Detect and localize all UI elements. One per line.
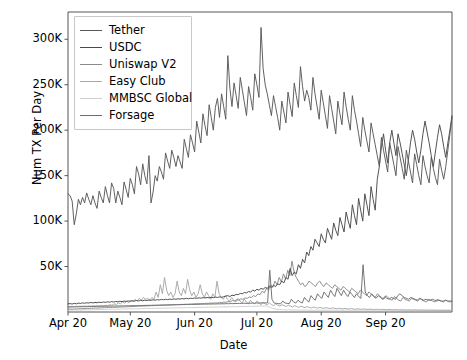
y-tick-label: 150K (6, 170, 62, 182)
chart-figure: Num TX Per Day Date 50K100K150K200K250K3… (0, 0, 467, 360)
y-tick-label: 250K (6, 79, 62, 91)
chart-legend: TetherUSDCUniswap V2Easy ClubMMBSC Globa… (74, 16, 192, 130)
legend-item-uniswap-v2[interactable]: Uniswap V2 (80, 56, 185, 73)
legend-item-tether[interactable]: Tether (80, 22, 185, 39)
legend-item-easy-club[interactable]: Easy Club (80, 73, 185, 90)
legend-swatch-icon (80, 30, 102, 31)
legend-swatch-icon (80, 81, 102, 82)
legend-label: Easy Club (109, 76, 166, 88)
legend-label: Tether (109, 25, 145, 37)
x-tick-label: Sep 20 (346, 316, 426, 330)
legend-label: Forsage (109, 110, 154, 122)
legend-label: Uniswap V2 (109, 59, 176, 71)
y-tick-label: 200K (6, 124, 62, 136)
legend-label: USDC (109, 42, 142, 54)
series-line-usdc (68, 116, 452, 304)
legend-swatch-icon (80, 64, 102, 65)
legend-swatch-icon (80, 98, 102, 99)
y-tick-label: 100K (6, 215, 62, 227)
y-tick-label: 50K (6, 261, 62, 273)
series-line-forsage (68, 265, 452, 307)
y-tick-label: 300K (6, 33, 62, 45)
plot-area (0, 0, 467, 360)
x-axis-label: Date (0, 338, 467, 352)
legend-item-usdc[interactable]: USDC (80, 39, 185, 56)
legend-label: MMBSC Global (109, 93, 192, 105)
legend-item-mmbsc-global[interactable]: MMBSC Global (80, 90, 185, 107)
legend-swatch-icon (80, 47, 102, 48)
legend-item-forsage[interactable]: Forsage (80, 107, 185, 124)
legend-swatch-icon (80, 115, 102, 116)
